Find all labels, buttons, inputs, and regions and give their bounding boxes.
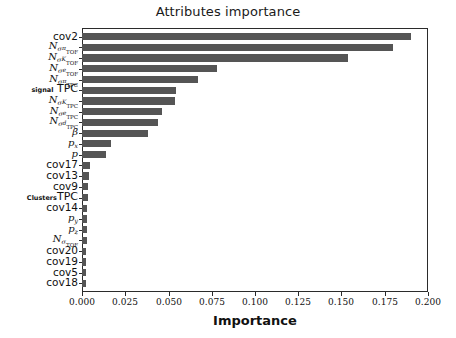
chart-root: Attributes importance cov2NσπTOFNσKTOFNσ…	[0, 0, 456, 338]
y-tick-mark	[79, 37, 82, 38]
y-tick-mark	[79, 144, 82, 145]
bar-row	[82, 237, 428, 244]
x-tick-label: 0.000	[69, 297, 95, 307]
y-tick-label: cov18	[46, 277, 78, 287]
y-tick-mark	[79, 80, 82, 81]
y-tick-mark	[79, 112, 82, 113]
y-tick-label: cov2	[53, 31, 78, 41]
bar	[82, 162, 90, 169]
y-tick-mark	[79, 262, 82, 263]
y-tick-mark	[79, 69, 82, 70]
bar	[82, 280, 86, 287]
bar-row	[82, 140, 428, 147]
bar-row	[82, 162, 428, 169]
bar-row	[82, 172, 428, 179]
bar	[82, 119, 158, 126]
x-tick-label: 0.050	[156, 297, 182, 307]
x-tick-label: 0.025	[112, 297, 138, 307]
y-tick-label: cov19	[46, 256, 78, 266]
bar-row	[82, 226, 428, 233]
bar-row	[82, 280, 428, 287]
x-tick-mark	[169, 292, 170, 296]
y-tick-mark	[79, 283, 82, 284]
y-tick-mark	[79, 165, 82, 166]
y-tick-mark	[79, 133, 82, 134]
y-tick-label: cov17	[46, 159, 78, 169]
y-tick-mark	[79, 155, 82, 156]
y-tick-mark	[79, 101, 82, 102]
x-tick-mark	[298, 292, 299, 296]
bar-row	[82, 194, 428, 201]
y-tick-mark	[79, 240, 82, 241]
x-tick-label: 0.075	[199, 297, 225, 307]
y-tick-mark	[79, 230, 82, 231]
x-tick-mark	[212, 292, 213, 296]
y-tick-mark	[79, 198, 82, 199]
x-tick-mark	[255, 292, 256, 296]
bar	[82, 248, 86, 255]
y-tick-mark	[79, 58, 82, 59]
y-tick-mark	[79, 47, 82, 48]
bar	[82, 87, 176, 94]
bar	[82, 151, 106, 158]
bar-row	[82, 258, 428, 265]
bar-row	[82, 130, 428, 137]
y-tick-label: β	[72, 127, 78, 137]
x-tick-label: 0.125	[285, 297, 311, 307]
y-tick-mark	[79, 122, 82, 123]
x-tick-mark	[125, 292, 126, 296]
bar	[82, 140, 111, 147]
bar-row	[82, 215, 428, 222]
chart-title: Attributes importance	[0, 4, 456, 19]
bar	[82, 237, 87, 244]
bar	[82, 194, 88, 201]
y-tick-mark	[79, 273, 82, 274]
bar-row	[82, 76, 428, 83]
x-tick-label: 0.100	[242, 297, 268, 307]
y-tick-label: cov20	[46, 245, 78, 255]
bar-row	[82, 97, 428, 104]
y-tick-mark	[79, 187, 82, 188]
bar	[82, 97, 175, 104]
bar-row	[82, 183, 428, 190]
y-tick-label: cov13	[46, 170, 78, 180]
bar	[82, 65, 217, 72]
y-tick-mark	[79, 208, 82, 209]
y-tick-mark	[79, 251, 82, 252]
x-tick-mark	[82, 292, 83, 296]
bar-row	[82, 33, 428, 40]
bar	[82, 205, 87, 212]
bar-row	[82, 44, 428, 51]
bar	[82, 130, 148, 137]
bar	[82, 258, 86, 265]
x-tick-mark	[341, 292, 342, 296]
bar	[82, 76, 198, 83]
bar	[82, 33, 411, 40]
bar	[82, 172, 89, 179]
y-tick-label: cov5	[53, 267, 78, 277]
bar-row	[82, 65, 428, 72]
x-tick-label: 0.200	[415, 297, 441, 307]
bar-row	[82, 269, 428, 276]
bar-row	[82, 108, 428, 115]
y-tick-mark	[79, 90, 82, 91]
bar	[82, 44, 393, 51]
bar-row	[82, 151, 428, 158]
bar-row	[82, 54, 428, 61]
bar-row	[82, 119, 428, 126]
bar-row	[82, 248, 428, 255]
bar-row	[82, 205, 428, 212]
bar	[82, 108, 162, 115]
x-tick-label: 0.150	[328, 297, 354, 307]
bar-row	[82, 87, 428, 94]
bar	[82, 183, 88, 190]
y-tick-label: cov14	[46, 202, 78, 212]
y-tick-label: p	[72, 149, 78, 159]
x-tick-mark	[428, 292, 429, 296]
x-tick-label: 0.175	[372, 297, 398, 307]
bar	[82, 215, 87, 222]
y-tick-mark	[79, 219, 82, 220]
y-tick-mark	[79, 176, 82, 177]
x-tick-mark	[385, 292, 386, 296]
bar	[82, 54, 348, 61]
